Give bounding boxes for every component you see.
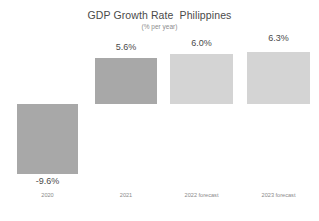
category-label: 2021 (95, 192, 157, 198)
gdp-growth-bar-chart: GDP Growth Rate Philippines (% per year)… (0, 0, 319, 221)
category-label: 2022 forecast (170, 192, 233, 198)
bar-group: 6.0% 2022 forecast (170, 0, 233, 221)
bar-rect[interactable] (247, 52, 310, 104)
bar-group: 5.6% 2021 (95, 0, 157, 221)
bar-group: -9.6% 2020 (17, 0, 78, 221)
bar-value-label: -9.6% (17, 176, 78, 186)
bar-rect[interactable] (170, 54, 233, 104)
category-label: 2023 forecast (247, 192, 310, 198)
bar-rect[interactable] (95, 58, 157, 104)
bar-value-label: 6.0% (170, 38, 233, 48)
bar-rect[interactable] (17, 104, 78, 174)
category-label: 2020 (17, 192, 78, 198)
plot-area: -9.6% 2020 5.6% 2021 6.0% 2022 forecast … (0, 0, 319, 221)
bar-value-label: 5.6% (95, 42, 157, 52)
bar-value-label: 6.3% (247, 33, 310, 43)
bar-group: 6.3% 2023 forecast (247, 0, 310, 221)
